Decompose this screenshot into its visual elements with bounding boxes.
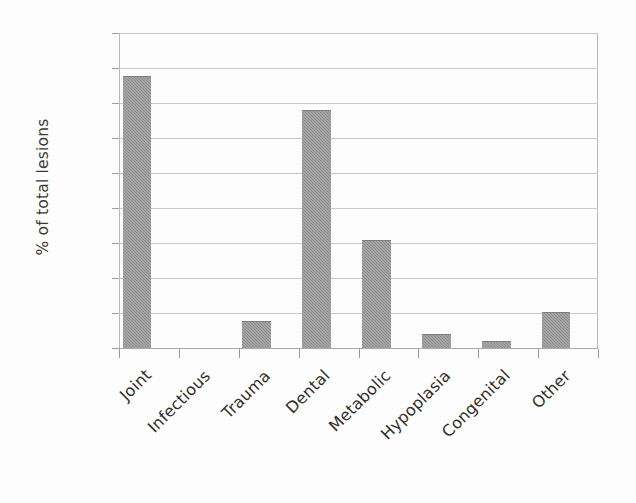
y-axis-tick-mark bbox=[112, 208, 119, 209]
x-axis-tick-mark bbox=[239, 349, 240, 358]
y-axis-tick-mark bbox=[112, 103, 119, 104]
y-axis-line bbox=[119, 33, 120, 348]
gridline bbox=[119, 208, 598, 209]
x-axis-tick-label: Trauma bbox=[218, 366, 274, 422]
gridline bbox=[119, 313, 598, 314]
x-axis-tick-mark bbox=[598, 349, 599, 358]
x-axis-tick-mark bbox=[359, 349, 360, 358]
gridline bbox=[119, 33, 598, 34]
x-axis-tick-mark bbox=[418, 349, 419, 358]
x-axis-tick-label: Infectious bbox=[144, 366, 214, 436]
plot-right-border bbox=[597, 33, 598, 348]
bar bbox=[123, 76, 152, 348]
y-axis-tick-mark bbox=[112, 278, 119, 279]
x-axis-tick-mark bbox=[478, 349, 479, 358]
y-axis-tick-mark bbox=[112, 173, 119, 174]
bar bbox=[362, 240, 391, 348]
gridline bbox=[119, 138, 598, 139]
x-axis-tick-label: Other bbox=[528, 366, 574, 412]
x-axis-tick-label: Dental bbox=[282, 366, 334, 418]
gridline bbox=[119, 278, 598, 279]
bar bbox=[482, 341, 511, 348]
y-axis-tick-mark bbox=[112, 243, 119, 244]
gridline bbox=[119, 68, 598, 69]
plot-area bbox=[119, 33, 598, 348]
gridline bbox=[119, 243, 598, 244]
x-axis-tick-mark bbox=[538, 349, 539, 358]
bar bbox=[242, 321, 271, 348]
y-axis-tick-mark bbox=[112, 68, 119, 69]
bar bbox=[542, 312, 571, 348]
x-axis-tick-mark bbox=[119, 349, 120, 358]
x-axis-tick-label: Joint bbox=[116, 366, 155, 405]
y-axis-tick-mark bbox=[112, 348, 119, 349]
gridline bbox=[119, 103, 598, 104]
bar bbox=[422, 334, 451, 348]
x-axis-tick-mark bbox=[299, 349, 300, 358]
bar-chart: % of total lesions 454035302520151050 Jo… bbox=[0, 0, 636, 503]
y-axis-tick-mark bbox=[112, 138, 119, 139]
bar bbox=[302, 110, 331, 348]
y-axis-tick-mark bbox=[112, 313, 119, 314]
y-axis-tick-mark bbox=[112, 33, 119, 34]
y-axis-title: % of total lesions bbox=[34, 67, 52, 307]
gridline bbox=[119, 173, 598, 174]
x-axis-tick-mark bbox=[179, 349, 180, 358]
